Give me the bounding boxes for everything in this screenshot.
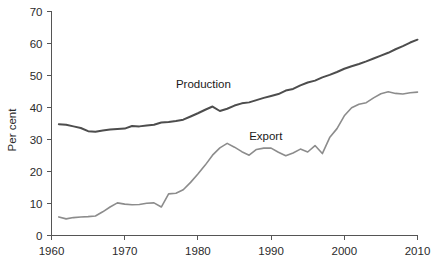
series-line-production bbox=[59, 40, 418, 132]
x-tick-label: 2000 bbox=[332, 245, 358, 257]
series-annotations: ProductionExport bbox=[176, 78, 283, 141]
y-axis-title: Per cent bbox=[6, 108, 18, 152]
x-tick-label: 2010 bbox=[405, 245, 431, 257]
axes bbox=[47, 12, 418, 241]
chart-container: 010203040506070196019701980199020002010 … bbox=[0, 0, 436, 266]
x-tick-label: 1960 bbox=[39, 245, 65, 257]
y-tick-label: 20 bbox=[30, 166, 43, 178]
series-line-export bbox=[59, 92, 418, 219]
x-tick-label: 1970 bbox=[112, 245, 138, 257]
series-label-production: Production bbox=[176, 78, 231, 90]
y-tick-label: 60 bbox=[30, 38, 43, 50]
y-tick-label: 10 bbox=[30, 198, 43, 210]
y-tick-label: 70 bbox=[30, 6, 43, 18]
x-tick-label: 1990 bbox=[258, 245, 284, 257]
series-label-export: Export bbox=[249, 130, 283, 142]
series-lines bbox=[59, 40, 418, 219]
y-tick-label: 50 bbox=[30, 70, 43, 82]
line-chart: 010203040506070196019701980199020002010 … bbox=[0, 0, 436, 266]
x-tick-label: 1980 bbox=[185, 245, 211, 257]
y-tick-label: 0 bbox=[36, 230, 42, 242]
y-tick-label: 40 bbox=[30, 102, 43, 114]
y-tick-label: 30 bbox=[30, 134, 43, 146]
